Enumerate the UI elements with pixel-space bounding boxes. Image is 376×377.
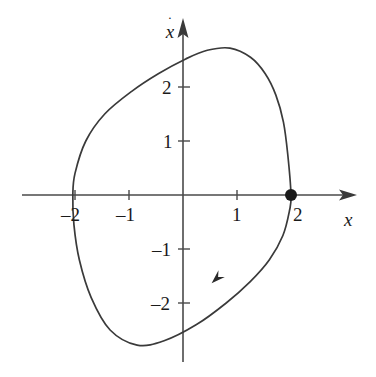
y-tick-label-1: 1 — [163, 132, 173, 151]
y-tick-label--2: –2 — [151, 294, 170, 313]
y-tick-label-2: 2 — [162, 78, 172, 97]
y-tick-label--1: –1 — [152, 240, 171, 259]
fixed-point-marker — [285, 189, 297, 201]
x-tick-label--1: –1 — [116, 205, 135, 224]
flow-direction-arrow-icon — [212, 270, 225, 283]
phase-portrait-figure: –2 –1 1 2 2 1 –1 –2 · x x — [0, 0, 376, 377]
x-tick-label--2: –2 — [61, 205, 80, 224]
x-tick-label-1: 1 — [232, 205, 242, 224]
y-axis-label-variable: x — [162, 22, 178, 41]
limit-cycle-curve — [73, 48, 291, 346]
y-axis-label: · x — [162, 16, 178, 41]
x-tick-label-2: 2 — [293, 205, 303, 224]
x-axis-label: x — [344, 210, 352, 229]
phase-portrait-svg — [0, 0, 376, 377]
